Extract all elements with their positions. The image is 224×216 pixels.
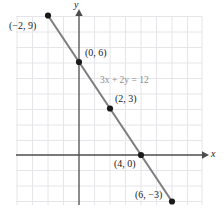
- equation-annotation: 3x + 2y = 12: [100, 76, 149, 86]
- data-point: [76, 59, 82, 65]
- x-axis-label: x: [211, 149, 215, 159]
- point-label-4-0: (4, 0): [114, 159, 136, 169]
- y-axis-label: y: [74, 0, 78, 10]
- point-label-2-3: (2, 3): [115, 94, 137, 104]
- data-point: [45, 12, 51, 18]
- point-label-minus2-9: (−2, 9): [9, 21, 36, 31]
- data-point: [107, 105, 113, 111]
- point-label-0-6: (0, 6): [85, 48, 107, 58]
- data-point: [169, 198, 175, 204]
- coordinate-plane-figure: y x 3x + 2y = 12 (−2, 9) (0, 6) (2, 3) (…: [0, 0, 224, 216]
- graph-canvas: [0, 0, 224, 216]
- data-point: [138, 152, 144, 158]
- point-label-6-minus3: (6, −3): [135, 190, 162, 200]
